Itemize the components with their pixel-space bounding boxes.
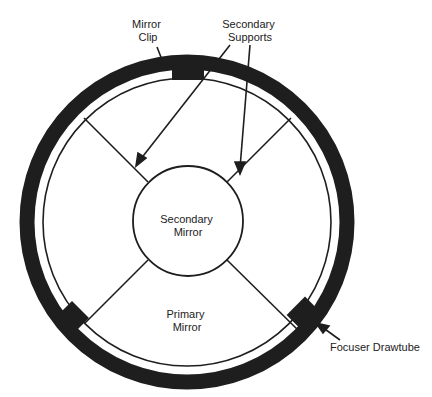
secondary-supports-label: Secondary Supports <box>222 18 278 43</box>
primary-mirror-label: Primary Mirror <box>167 308 208 333</box>
telescope-cross-section-diagram: Mirror Clip Secondary Supports Secondary… <box>0 0 432 397</box>
mirror-clip <box>172 58 204 80</box>
focuser-drawtube-label: Focuser Drawtube <box>330 341 420 353</box>
mirror-clip-label: Mirror Clip <box>132 18 164 43</box>
